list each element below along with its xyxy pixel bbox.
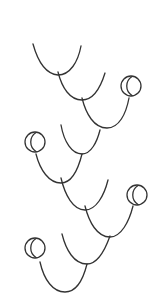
u-curve [36,154,82,183]
u-curve [61,125,100,154]
crescent-circle-icon [121,76,141,96]
u-curve [58,72,105,100]
diagram-canvas [0,0,159,308]
crescent-circle-icon [25,132,45,152]
u-curve [85,206,133,237]
crescent-circle-icon [25,238,45,258]
u-curve [82,98,129,128]
crescent-circle-icon [127,185,147,205]
u-curve [40,262,87,292]
u-curve [33,44,81,75]
u-curve [61,178,108,210]
u-curve [62,234,110,264]
diagram-svg [0,0,159,308]
